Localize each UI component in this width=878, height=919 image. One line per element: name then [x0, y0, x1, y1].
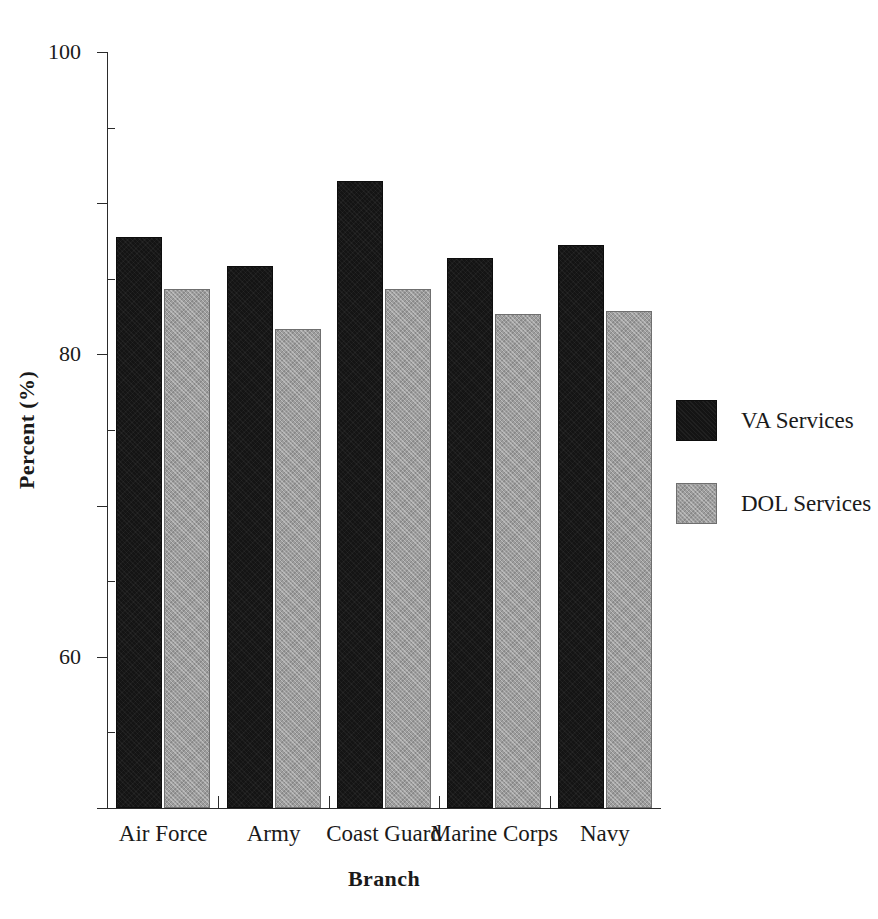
x-axis-category-label: Coast Guard: [326, 822, 442, 845]
y-axis-minor-tick: [108, 279, 115, 280]
legend-item-va: VA Services: [676, 400, 876, 441]
x-axis-category-label: Air Force: [119, 822, 208, 845]
y-axis-minor-tick: [108, 430, 115, 431]
chart-legend: VA Services DOL Services: [676, 400, 876, 566]
y-axis-major-tick: 20: [97, 657, 108, 658]
bar-dol: [385, 289, 431, 808]
x-axis-category-label: Navy: [580, 822, 630, 845]
x-axis-category-label: Army: [247, 822, 301, 845]
y-axis-minor-tick: [108, 732, 115, 733]
y-axis-major-tick: 40: [97, 506, 108, 507]
x-axis-separator-tick: [218, 796, 219, 808]
bar-dol: [164, 289, 210, 808]
bar-dol: [495, 314, 541, 808]
x-axis-category-label: Marine Corps: [431, 822, 558, 845]
legend-swatch-dol-icon: [676, 483, 717, 524]
y-axis-tick-label: 100: [48, 41, 81, 63]
x-axis-separator-tick: [439, 796, 440, 808]
legend-swatch-va-icon: [676, 400, 717, 441]
x-axis-separator-tick: [550, 796, 551, 808]
bar-va: [337, 181, 383, 808]
bar-va: [227, 266, 273, 808]
x-axis-title: Branch: [348, 866, 420, 892]
y-axis-title: Percent (%): [14, 371, 40, 489]
x-axis-line: [108, 808, 661, 809]
y-axis-major-tick: 80: [97, 203, 108, 204]
x-axis-separator-tick: [329, 796, 330, 808]
bar-dol: [606, 311, 652, 808]
bar-va: [558, 245, 604, 808]
bar-va: [447, 258, 493, 808]
y-axis-tick-label: 60: [59, 646, 81, 668]
y-axis-minor-tick: [108, 128, 115, 129]
bar-dol: [275, 329, 321, 808]
legend-label-dol: DOL Services: [741, 492, 871, 515]
y-axis-major-tick: 60: [97, 354, 108, 355]
y-axis-tick-label: 80: [59, 343, 81, 365]
bar-va: [116, 237, 162, 808]
y-axis-major-tick: 100: [97, 52, 108, 53]
legend-item-dol: DOL Services: [676, 483, 876, 524]
plot-area: 020406080100: [108, 52, 660, 808]
bar-chart-figure: 020406080100 Percent (%) Branch VA Servi…: [0, 0, 878, 919]
y-axis-major-tick: 0: [97, 808, 108, 809]
legend-label-va: VA Services: [741, 409, 854, 432]
y-axis-minor-tick: [108, 581, 115, 582]
